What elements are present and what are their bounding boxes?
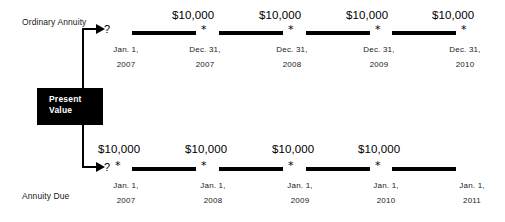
due-date-end-line2: 2011 [444, 197, 500, 205]
ordinary-date-start-line1: Jan. 1, [98, 46, 154, 54]
ordinary-date-1-line1: Dec. 31, [177, 46, 233, 54]
ordinary-payment-marker-1: * [201, 28, 207, 32]
ordinary-date-1-line2: 2007 [177, 61, 233, 69]
ordinary-payment-marker-3: * [375, 28, 381, 32]
top-arrow-horizontal-stem [82, 28, 97, 30]
due-date-3-line1: Jan. 1, [272, 182, 328, 190]
annuity-due-unknown-marker: ? [104, 162, 110, 173]
top-arrow-vertical-stem [82, 28, 84, 90]
ordinary-annuity-label: Ordinary Annuity [22, 18, 86, 27]
due-payment-marker-1: * [115, 164, 121, 168]
ordinary-timeline-segment-3 [306, 31, 370, 35]
due-date-2-line2: 2008 [185, 197, 241, 205]
due-timeline-segment-4 [392, 167, 456, 171]
ordinary-timeline-segment-4 [392, 31, 456, 35]
due-payment-amount-1: $10,000 [98, 144, 140, 156]
due-date-1: Jan. 1, 2007 [98, 182, 154, 205]
present-value-box: Present Value [37, 88, 103, 125]
ordinary-payment-amount-3: $10,000 [346, 10, 388, 22]
due-payment-amount-2: $10,000 [185, 144, 227, 156]
ordinary-annuity-unknown-marker: ? [104, 24, 110, 35]
due-date-end: Jan. 1, 2011 [444, 182, 500, 205]
ordinary-timeline-segment-2 [219, 31, 283, 35]
due-payment-marker-2: * [201, 164, 207, 168]
ordinary-timeline-segment-1 [132, 31, 196, 35]
ordinary-date-4: Dec. 31, 2010 [437, 46, 493, 69]
ordinary-date-start-line2: 2007 [98, 61, 154, 69]
due-timeline-segment-1 [132, 167, 196, 171]
ordinary-date-3-line2: 2009 [351, 61, 407, 69]
ordinary-date-3: Dec. 31, 2009 [351, 46, 407, 69]
ordinary-date-start: Jan. 1, 2007 [98, 46, 154, 69]
ordinary-payment-amount-2: $10,000 [259, 10, 301, 22]
ordinary-payment-amount-4: $10,000 [432, 10, 474, 22]
due-date-end-line1: Jan. 1, [444, 182, 500, 190]
ordinary-date-4-line2: 2010 [437, 61, 493, 69]
present-value-line1: Present [49, 94, 103, 105]
present-value-line2: Value [49, 105, 103, 116]
due-date-4: Jan. 1, 2010 [358, 182, 414, 205]
ordinary-payment-amount-1: $10,000 [172, 10, 214, 22]
due-timeline-segment-2 [219, 167, 283, 171]
ordinary-date-4-line1: Dec. 31, [437, 46, 493, 54]
due-payment-marker-4: * [375, 164, 381, 168]
due-payment-amount-4: $10,000 [358, 144, 400, 156]
due-date-1-line2: 2007 [98, 197, 154, 205]
due-date-1-line1: Jan. 1, [98, 182, 154, 190]
ordinary-date-2-line2: 2008 [264, 61, 320, 69]
due-timeline-segment-3 [306, 167, 370, 171]
ordinary-date-2-line1: Dec. 31, [264, 46, 320, 54]
due-date-2-line1: Jan. 1, [185, 182, 241, 190]
due-payment-amount-3: $10,000 [272, 144, 314, 156]
due-date-3-line2: 2009 [272, 197, 328, 205]
bottom-arrow-horizontal-stem [82, 166, 97, 168]
ordinary-payment-marker-2: * [288, 28, 294, 32]
due-date-4-line2: 2010 [358, 197, 414, 205]
annuity-due-label: Annuity Due [22, 192, 69, 201]
annuity-timeline-diagram: Ordinary Annuity ? $10,000 $10,000 $10,0… [0, 0, 505, 222]
ordinary-payment-marker-4: * [461, 28, 467, 32]
ordinary-date-2: Dec. 31, 2008 [264, 46, 320, 69]
ordinary-date-3-line1: Dec. 31, [351, 46, 407, 54]
due-date-2: Jan. 1, 2008 [185, 182, 241, 205]
ordinary-date-1: Dec. 31, 2007 [177, 46, 233, 69]
due-date-4-line1: Jan. 1, [358, 182, 414, 190]
due-date-3: Jan. 1, 2009 [272, 182, 328, 205]
due-payment-marker-3: * [288, 164, 294, 168]
